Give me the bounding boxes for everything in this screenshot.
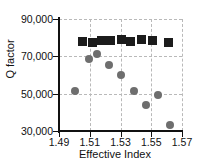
chart-figure: Q factor Effective Index 30,00050,00070,… [0, 0, 204, 167]
gridline-vertical-4 [182, 19, 183, 131]
data-point-square-7 [148, 36, 157, 45]
data-point-square-5 [126, 37, 135, 46]
data-point-square-4 [117, 35, 126, 44]
data-point-square-2 [97, 36, 106, 45]
x-axis-tick-label-2: 1.53 [104, 137, 138, 148]
gridline-horizontal-3 [59, 19, 182, 20]
x-axis-tick-label-0: 1.49 [42, 137, 76, 148]
x-axis-tick-label-3: 1.55 [134, 137, 168, 148]
data-point-square-6 [137, 35, 146, 44]
y-axis-tick-label-1: 50,000 [0, 89, 53, 99]
data-point-circle-3 [105, 61, 113, 69]
gridline-vertical-1 [90, 19, 91, 131]
y-axis-tick-label-3: 90,000 [0, 14, 53, 24]
data-point-circle-7 [154, 91, 162, 99]
data-point-circle-6 [142, 101, 150, 109]
data-point-circle-0 [71, 87, 79, 95]
data-point-square-0 [78, 37, 87, 46]
data-point-square-8 [164, 38, 173, 47]
y-axis-tick-label-0: 30,000 [0, 126, 53, 136]
data-point-circle-5 [130, 87, 138, 95]
data-point-square-3 [106, 36, 115, 45]
data-point-square-1 [88, 38, 97, 47]
gridline-horizontal-2 [59, 56, 182, 57]
y-axis-tick-3 [53, 19, 59, 20]
x-axis-tick-label-1: 1.51 [73, 137, 107, 148]
y-axis-line [58, 17, 60, 133]
x-axis-title: Effective Index [40, 148, 190, 160]
y-axis-tick-2 [53, 56, 59, 57]
y-axis-tick-label-2: 70,000 [0, 51, 53, 61]
x-axis-tick-label-4: 1.57 [165, 137, 199, 148]
y-axis-tick-1 [53, 94, 59, 95]
